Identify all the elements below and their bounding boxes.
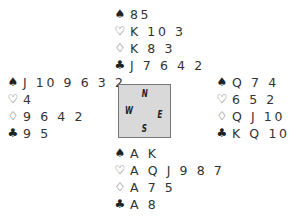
club-icon: ♣ <box>215 125 229 142</box>
clipped-heading-text: ······ <box>0 0 35 7</box>
south-spades: A K <box>130 145 159 162</box>
north-diamonds: K 8 3 <box>130 40 175 57</box>
west-spades: J 10 9 6 3 2 <box>23 74 125 91</box>
diamond-icon: ♢ <box>215 108 229 125</box>
north-spades: 85 <box>130 6 151 23</box>
club-icon: ♣ <box>113 57 127 74</box>
club-icon: ♣ <box>6 125 20 142</box>
spade-icon: ♠ <box>6 74 20 91</box>
diamond-icon: ♢ <box>113 40 127 57</box>
south-hearts: A Q J 9 8 7 <box>130 162 224 179</box>
east-diamonds: Q J 10 <box>232 108 285 125</box>
spade-icon: ♠ <box>113 6 127 23</box>
west-hearts: 4 <box>23 91 34 108</box>
spade-icon: ♠ <box>215 74 229 91</box>
spade-icon: ♠ <box>113 145 127 162</box>
compass-south-label: S <box>142 123 147 134</box>
compass-table: N W E S <box>118 84 171 138</box>
east-hearts: 6 5 2 <box>232 91 277 108</box>
heart-icon: ♡ <box>113 23 127 40</box>
compass-west-label: W <box>125 105 133 116</box>
south-diamonds: A 7 5 <box>130 179 175 196</box>
diamond-icon: ♢ <box>6 108 20 125</box>
east-clubs: K Q 10 3 <box>232 125 294 142</box>
compass-north-label: N <box>142 88 148 99</box>
diamond-icon: ♢ <box>113 179 127 196</box>
heart-icon: ♡ <box>113 162 127 179</box>
compass-east-label: E <box>158 109 163 120</box>
heart-icon: ♡ <box>215 91 229 108</box>
north-clubs: J 7 6 4 2 <box>130 57 205 74</box>
north-hearts: K 10 3 <box>130 23 186 40</box>
heart-icon: ♡ <box>6 91 20 108</box>
west-clubs: 9 5 <box>23 125 51 142</box>
south-clubs: A 8 <box>130 196 158 213</box>
west-diamonds: 9 6 4 2 <box>23 108 85 125</box>
east-spades: Q 7 4 <box>232 74 279 91</box>
club-icon: ♣ <box>113 196 127 213</box>
